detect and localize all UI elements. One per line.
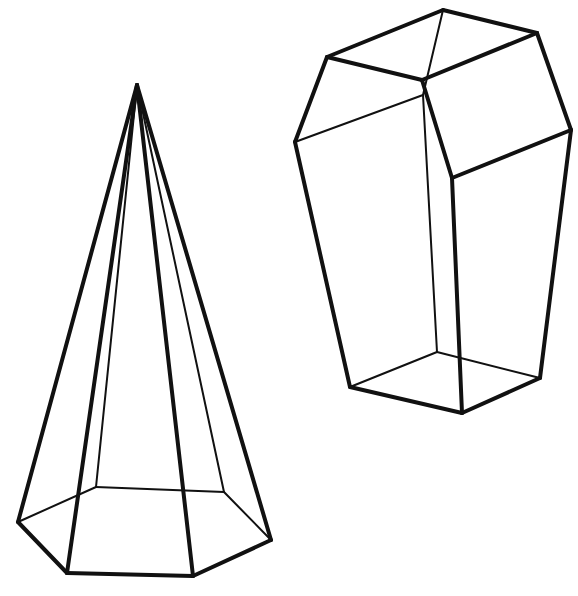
geometric-solids-drawing <box>0 0 578 596</box>
figure-canvas <box>0 0 578 596</box>
truncated-prism <box>295 10 571 413</box>
hexagonal-pyramid <box>18 85 271 576</box>
